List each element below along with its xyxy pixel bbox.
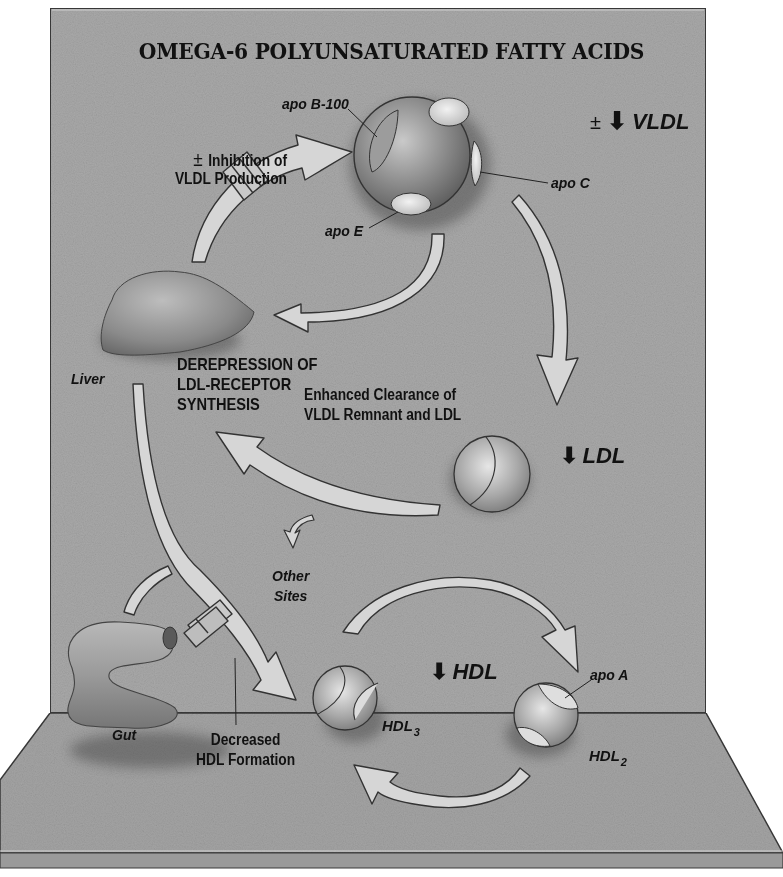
ldl-particle bbox=[454, 436, 530, 512]
plus-minus-sign: ± bbox=[590, 111, 601, 133]
label-gut: Gut bbox=[112, 728, 136, 744]
apo-e-cap bbox=[391, 193, 431, 215]
label-hdl2: HDL2 bbox=[589, 748, 627, 768]
label-apo-b100: apo B-100 bbox=[282, 97, 349, 113]
label-other-sites: Other Sites bbox=[272, 566, 309, 606]
label-enhanced-clearance: Enhanced Clearance of VLDL Remnant and L… bbox=[304, 385, 461, 425]
diagram-canvas: OMEGA-6 POLYUNSATURATED FATTY ACIDS ± In… bbox=[0, 0, 783, 877]
label-hdl-indicator: ⬇ HDL bbox=[430, 660, 498, 685]
diagram-title: OMEGA-6 POLYUNSATURATED FATTY ACIDS bbox=[31, 38, 751, 64]
label-apo-c: apo C bbox=[551, 176, 590, 192]
label-apo-e: apo E bbox=[325, 224, 363, 240]
apo-b100-cap bbox=[429, 98, 469, 126]
label-derepression: DEREPRESSION OF LDL-RECEPTOR SYNTHESIS bbox=[177, 355, 318, 415]
hdl3-particle bbox=[313, 666, 378, 730]
label-decreased-hdl-formation: Decreased HDL Formation bbox=[194, 730, 297, 770]
label-apo-a: apo A bbox=[590, 668, 628, 684]
label-inhibition: ± Inhibition of VLDL Production bbox=[158, 148, 287, 188]
label-hdl3: HDL3 bbox=[382, 718, 420, 738]
label-vldl-indicator: ± ⬇ VLDL bbox=[590, 108, 689, 135]
down-arrow-icon: ⬇ bbox=[430, 659, 448, 684]
plus-minus-sign: ± bbox=[193, 148, 202, 170]
label-ldl-indicator: ⬇ LDL bbox=[560, 444, 625, 469]
down-arrow-icon: ⬇ bbox=[607, 107, 627, 134]
down-arrow-icon: ⬇ bbox=[560, 443, 578, 468]
label-liver: Liver bbox=[71, 372, 104, 388]
